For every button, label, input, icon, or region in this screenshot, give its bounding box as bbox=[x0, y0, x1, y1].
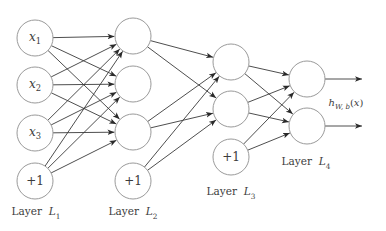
edge-a32-to-a42 bbox=[249, 113, 289, 122]
network-graph bbox=[0, 0, 386, 231]
edge-b2-to-a31 bbox=[144, 76, 219, 167]
node-a22 bbox=[115, 66, 151, 102]
node-a41 bbox=[289, 61, 325, 97]
node-label-x3: x3 bbox=[29, 125, 41, 141]
edge-b3-to-a42 bbox=[248, 133, 290, 150]
node-label-b2: +1 bbox=[124, 174, 142, 188]
edge-a23-to-a32 bbox=[151, 113, 213, 128]
neural-network-diagram: x1x2x3+1Layer L1+1Layer L2+1Layer L3Laye… bbox=[0, 0, 386, 231]
layer-label-L1: Layer L1 bbox=[12, 205, 61, 220]
output-label: hW, b(x) bbox=[329, 97, 364, 111]
edge-a31-to-a41 bbox=[249, 66, 289, 75]
edge-a32-to-a41 bbox=[248, 86, 290, 103]
edge-b1-to-a23 bbox=[51, 140, 116, 173]
edge-a21-to-a32 bbox=[147, 47, 216, 98]
node-a23 bbox=[115, 114, 151, 150]
edge-a21-to-a31 bbox=[150, 41, 213, 58]
edge-b3-to-a41 bbox=[244, 92, 295, 144]
node-label-x2: x2 bbox=[29, 77, 41, 93]
edge-x1-to-a21 bbox=[53, 36, 115, 37]
layer-label-L2: Layer L2 bbox=[109, 205, 158, 220]
node-label-b3: +1 bbox=[222, 150, 240, 164]
node-a21 bbox=[115, 18, 151, 54]
node-a42 bbox=[289, 108, 325, 144]
edge-b2-to-a32 bbox=[148, 120, 217, 170]
node-a32 bbox=[213, 91, 249, 127]
edge-b1-to-a21 bbox=[45, 51, 123, 166]
node-label-x1: x1 bbox=[29, 30, 41, 46]
node-label-b1: +1 bbox=[26, 174, 44, 188]
edges bbox=[45, 36, 362, 173]
layer-label-L3: Layer L3 bbox=[207, 185, 256, 200]
layer-label-L4: Layer L4 bbox=[282, 155, 331, 170]
node-a31 bbox=[213, 44, 249, 80]
edge-a23-to-a31 bbox=[148, 73, 216, 122]
